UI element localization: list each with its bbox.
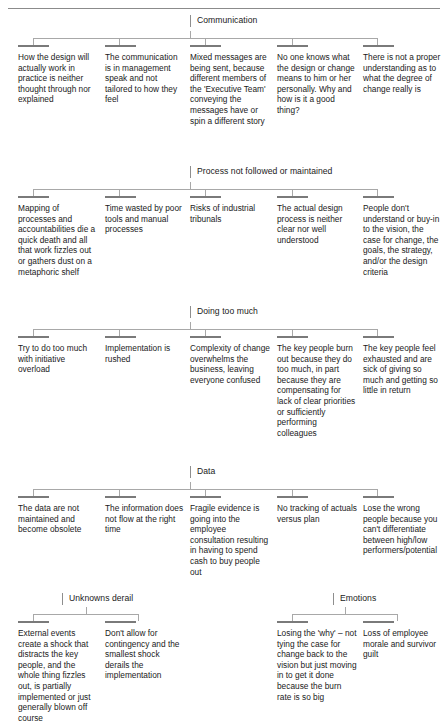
bracket-connector — [33, 189, 378, 196]
card[interactable]: How the design will actually work in pra… — [18, 45, 98, 105]
bracket-stem-up — [190, 31, 191, 38]
bracket-stem-up — [86, 607, 87, 614]
top-divider-rule — [8, 8, 440, 9]
card[interactable]: Mixed messages are being sent, because d… — [190, 45, 270, 126]
section-label: Emotions — [340, 593, 376, 604]
bracket-tick — [33, 189, 34, 196]
card-text: External events create a shock that dist… — [18, 628, 98, 723]
card[interactable]: Time wasted by poor tools and manual pro… — [105, 196, 185, 235]
bracket-tick — [205, 189, 206, 196]
bracket-tick — [292, 329, 293, 336]
bracket-tick — [377, 489, 378, 496]
bracket-tick — [205, 489, 206, 496]
bracket-tick — [205, 329, 206, 336]
bracket-tick — [119, 189, 120, 196]
bracket-tick — [292, 189, 293, 196]
card-text: The actual design process is neither cle… — [277, 203, 357, 245]
mindmap-page: Communication How the design will actual… — [0, 0, 448, 728]
card[interactable]: Mapping of processes and accountabilitie… — [18, 196, 98, 277]
card-accent-bar — [363, 621, 394, 623]
bracket-tick — [377, 329, 378, 336]
card-accent-bar — [363, 496, 394, 498]
section-label: Data — [197, 466, 215, 477]
bracket-horizontal-bar — [292, 614, 398, 615]
card[interactable]: Fragile evidence is going into the emplo… — [190, 496, 270, 577]
card[interactable]: Don't allow for contingency and the smal… — [105, 621, 185, 681]
card[interactable]: Try to do too much with initiative overl… — [18, 336, 98, 375]
card-accent-bar — [18, 496, 49, 498]
card-accent-bar — [277, 45, 308, 47]
card[interactable]: The key people feel exhausted and are si… — [363, 336, 443, 396]
bracket-connector — [33, 329, 378, 336]
card-text: The key people burn out because they do … — [277, 343, 357, 438]
card-text: No tracking of actuals versus plan — [277, 503, 357, 524]
card[interactable]: The key people burn out because they do … — [277, 336, 357, 438]
bracket-horizontal-bar — [33, 614, 139, 615]
card-text: Mixed messages are being sent, because d… — [190, 52, 270, 126]
card-accent-bar — [18, 336, 49, 338]
card[interactable]: Lose the wrong people because you can't … — [363, 496, 443, 556]
bracket-connector — [33, 38, 378, 45]
bracket-tick — [205, 38, 206, 45]
card-accent-bar — [105, 45, 136, 47]
section-tick-icon — [190, 15, 191, 27]
card[interactable]: Risks of industrial tribunals — [190, 196, 270, 224]
section-title-data: Data — [190, 465, 215, 478]
card-text: The communication is in management speak… — [105, 52, 185, 105]
card-accent-bar — [18, 196, 49, 198]
card[interactable]: No one knows what the design or change m… — [277, 45, 357, 116]
bracket-connector — [292, 614, 398, 621]
card[interactable]: No tracking of actuals versus plan — [277, 496, 357, 524]
card[interactable]: The communication is in management speak… — [105, 45, 185, 105]
bracket-tick — [397, 614, 398, 621]
section-title-emotions: Emotions — [333, 592, 376, 605]
bracket-connector — [33, 489, 378, 496]
bracket-tick — [377, 38, 378, 45]
card[interactable]: Loss of employee morale and survivor gui… — [363, 621, 443, 660]
card-text: There is not a proper understanding as t… — [363, 52, 443, 94]
card[interactable]: Complexity of change overwhelms the busi… — [190, 336, 270, 385]
bracket-tick — [292, 614, 293, 621]
section-label: Process not followed or maintained — [197, 166, 332, 177]
card-text: Complexity of change overwhelms the busi… — [190, 343, 270, 385]
card-text: The key people feel exhausted and are si… — [363, 343, 443, 396]
card-accent-bar — [105, 496, 136, 498]
bracket-tick — [292, 38, 293, 45]
card-accent-bar — [277, 621, 308, 623]
card-text: Implementation is rushed — [105, 343, 185, 364]
card-text: Time wasted by poor tools and manual pro… — [105, 203, 185, 235]
card-text: Lose the wrong people because you can't … — [363, 503, 443, 556]
card-accent-bar — [277, 496, 308, 498]
card-accent-bar — [190, 196, 221, 198]
card-text: Risks of industrial tribunals — [190, 203, 270, 224]
card[interactable]: Losing the 'why' – not tying the case fo… — [277, 621, 357, 702]
card-accent-bar — [105, 621, 136, 623]
card-text: People don't understand or buy-in to the… — [363, 203, 443, 277]
section-title-process-not-followed: Process not followed or maintained — [190, 165, 332, 178]
card-text: Losing the 'why' – not tying the case fo… — [277, 628, 357, 702]
section-tick-icon — [190, 166, 191, 178]
card[interactable]: Implementation is rushed — [105, 336, 185, 364]
section-label: Unknowns derail — [69, 593, 133, 604]
card-text: No one knows what the design or change m… — [277, 52, 357, 116]
card-accent-bar — [18, 45, 49, 47]
card[interactable]: The data are not maintained and become o… — [18, 496, 98, 535]
section-tick-icon — [190, 466, 191, 478]
bracket-connector — [33, 614, 139, 621]
section-tick-icon — [62, 593, 63, 605]
card-accent-bar — [363, 336, 394, 338]
bracket-tick — [33, 329, 34, 336]
card[interactable]: External events create a shock that dist… — [18, 621, 98, 723]
bracket-tick — [119, 329, 120, 336]
card[interactable]: People don't understand or buy-in to the… — [363, 196, 443, 277]
card[interactable]: The information does not flow at the rig… — [105, 496, 185, 535]
bracket-stem-up — [345, 607, 346, 614]
card[interactable]: There is not a proper understanding as t… — [363, 45, 443, 94]
card-accent-bar — [277, 196, 308, 198]
card-accent-bar — [190, 45, 221, 47]
card[interactable]: The actual design process is neither cle… — [277, 196, 357, 245]
card-text: Don't allow for contingency and the smal… — [105, 628, 185, 681]
section-title-unknowns-derail: Unknowns derail — [62, 592, 133, 605]
section-label: Communication — [197, 15, 257, 26]
card-accent-bar — [105, 196, 136, 198]
